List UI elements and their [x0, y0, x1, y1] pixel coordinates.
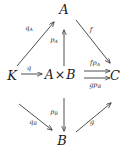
times-symbol: ×	[54, 67, 66, 82]
label-q-A: qA	[25, 25, 33, 32]
label-g-base: g	[90, 118, 94, 126]
product-second-factor: B	[66, 67, 75, 82]
label-g-p-B: gpB	[89, 82, 101, 89]
arrow-K-to-A-top	[17, 22, 54, 66]
label-q: q	[27, 65, 31, 72]
label-p-A: pA	[50, 37, 58, 44]
node-A-top: A	[59, 3, 68, 16]
label-p-A-sub: A	[55, 39, 58, 44]
label-q-A-sub: A	[30, 27, 33, 32]
label-p-B-sub: B	[55, 111, 58, 116]
label-q-base: q	[27, 64, 31, 72]
label-f-p-A-sub: A	[97, 62, 100, 67]
arrow-K-to-B-bottom	[19, 104, 52, 130]
product-first-factor: A	[45, 67, 54, 82]
node-C-right: C	[110, 69, 120, 82]
label-g-p-B-sub: B	[98, 84, 101, 89]
label-p-B: pB	[50, 109, 58, 116]
node-K-left: K	[7, 69, 17, 82]
label-f: f	[90, 27, 92, 34]
arrow-A-top-to-C	[76, 20, 110, 63]
label-f-base: f	[90, 26, 92, 34]
label-q-B-sub: B	[34, 121, 37, 126]
commutative-diagram: A K A×B C B qA pA f q fpA gpB qB pB g	[0, 0, 125, 151]
label-g: g	[90, 119, 94, 126]
node-B-bottom: B	[57, 134, 67, 147]
label-f-p-A: fpA	[90, 60, 100, 67]
label-g-p-B-base: gp	[89, 81, 97, 89]
node-A-times-B: A×B	[45, 69, 76, 82]
label-q-B: qB	[29, 119, 37, 126]
label-f-p-A-base: fp	[90, 59, 97, 67]
